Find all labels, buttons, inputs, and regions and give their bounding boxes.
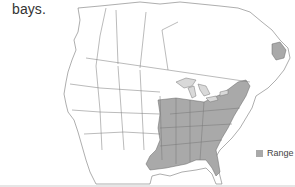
bottom-divider: [0, 185, 295, 187]
range-map: [0, 0, 295, 187]
legend-label-range: Range: [267, 148, 294, 158]
map-legend: Range: [256, 148, 294, 158]
range-swatch: [256, 150, 263, 157]
